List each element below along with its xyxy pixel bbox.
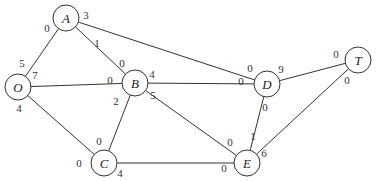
capacity-label: 0 — [247, 62, 253, 74]
node-e: E — [234, 150, 260, 176]
capacity-label: 7 — [32, 69, 38, 81]
capacity-label: 0 — [221, 162, 227, 174]
capacity-label: 1 — [250, 130, 256, 142]
capacity-labels-group: 305710044250040090000160 — [16, 9, 350, 179]
capacity-label: 0 — [262, 101, 268, 113]
edge-b-e — [146, 91, 237, 156]
capacity-label: 0 — [333, 48, 339, 60]
node-label: D — [261, 77, 272, 92]
capacity-label: 5 — [150, 89, 156, 101]
capacity-label: 0 — [107, 74, 113, 86]
node-label: E — [242, 156, 251, 171]
edge-b-c — [109, 95, 131, 151]
capacity-label: 0 — [76, 157, 82, 169]
capacity-label: 0 — [227, 136, 233, 148]
capacity-label: 5 — [19, 57, 25, 69]
node-label: A — [61, 11, 70, 26]
node-b: B — [122, 70, 148, 96]
capacity-label: 1 — [94, 37, 100, 49]
capacity-label: 0 — [96, 135, 102, 147]
edges-group — [25, 22, 348, 163]
node-c: C — [91, 150, 117, 176]
node-t: T — [345, 47, 371, 73]
capacity-label: 0 — [344, 74, 350, 86]
node-label: B — [131, 76, 139, 91]
edge-o-c — [28, 96, 95, 155]
capacity-label: 0 — [44, 22, 50, 34]
network-flow-diagram: AOBCDTE 305710044250040090000160 — [0, 0, 381, 181]
edge-o-a — [25, 29, 58, 77]
node-a: A — [53, 5, 79, 31]
capacity-label: 4 — [117, 167, 123, 179]
capacity-label: 4 — [16, 102, 22, 114]
edge-d-t — [280, 63, 346, 80]
nodes-group: AOBCDTE — [5, 5, 371, 176]
node-d: D — [254, 71, 280, 97]
capacity-label: 4 — [149, 68, 155, 80]
node-label: T — [354, 53, 362, 68]
capacity-label: 2 — [113, 95, 119, 107]
capacity-label: 6 — [261, 147, 267, 159]
node-o: O — [5, 74, 31, 100]
edge-a-d — [78, 22, 254, 80]
capacity-label: 9 — [278, 63, 284, 75]
node-label: O — [13, 80, 23, 95]
edge-a-b — [75, 27, 125, 74]
node-label: C — [100, 156, 109, 171]
capacity-label: 0 — [119, 57, 125, 69]
capacity-label: 0 — [238, 75, 244, 87]
capacity-label: 3 — [83, 9, 89, 21]
